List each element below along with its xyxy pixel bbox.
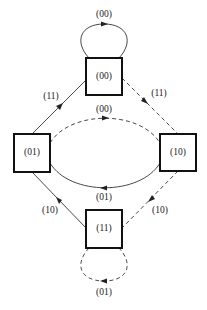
edge-label-s00-s10: (11)	[151, 88, 166, 99]
edge-label-s11-s11: (01)	[96, 287, 112, 298]
node-label-s11: (11)	[96, 223, 111, 234]
edge-s00-s00	[81, 24, 127, 58]
node-label-s01: (01)	[24, 147, 40, 158]
node-label-s00: (00)	[96, 71, 112, 82]
arrow-icon	[101, 22, 108, 27]
arrow-icon	[100, 186, 107, 191]
node-s10: (10)	[160, 134, 196, 171]
arrow-icon	[100, 279, 107, 284]
node-s00: (00)	[86, 58, 122, 95]
arrow-icon	[148, 195, 155, 202]
edge-label-s10-s01: (01)	[96, 192, 112, 203]
edge-s01-s10	[50, 118, 160, 143]
edge-s11-s11	[81, 248, 127, 281]
node-s01: (01)	[14, 134, 50, 172]
edge-label-s11-s01: (10)	[42, 205, 58, 216]
arrow-icon	[56, 197, 62, 204]
arrow-icon	[102, 116, 109, 121]
node-s11: (11)	[86, 210, 122, 248]
edge-label-s00-s00: (00)	[96, 9, 112, 20]
state-diagram: (00) (11) (11) (00) (01) (10) (10) (01) …	[0, 0, 207, 310]
edge-label-s01-s10: (00)	[96, 104, 112, 115]
edge-s00-s10	[122, 78, 177, 133]
edge-s10-s01	[50, 163, 160, 188]
node-label-s10: (10)	[170, 147, 186, 158]
edge-label-s01-s00: (11)	[43, 91, 58, 102]
edge-label-s10-s11: (10)	[152, 205, 168, 216]
